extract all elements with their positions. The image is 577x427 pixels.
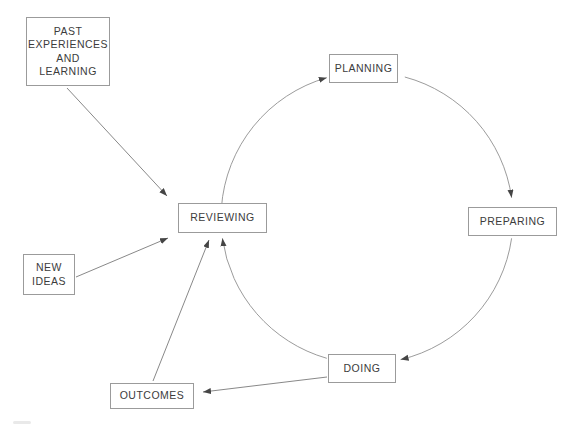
node-outcomes: OUTCOMES xyxy=(110,383,194,409)
node-doing: DOING xyxy=(328,354,396,383)
cycle-arc-preparing-to-doing xyxy=(401,238,512,359)
node-reviewing: REVIEWING xyxy=(178,203,267,233)
cycle-arc-reviewing-to-planning xyxy=(221,78,326,208)
node-past-experiences-and-learning: PAST EXPERIENCES AND LEARNING xyxy=(26,17,110,86)
cycle-arc-planning-to-preparing xyxy=(405,77,512,198)
arrow-outcomes-to-reviewing xyxy=(153,240,209,381)
node-past-experiences-label: PAST EXPERIENCES AND LEARNING xyxy=(28,25,108,79)
arrow-doing-to-outcomes xyxy=(203,377,327,392)
cycle-diagram: PAST EXPERIENCES AND LEARNING PLANNING P… xyxy=(0,0,577,427)
node-doing-label: DOING xyxy=(344,362,381,376)
node-reviewing-label: REVIEWING xyxy=(190,211,255,225)
arrow-past-experiences-to-reviewing xyxy=(67,88,167,196)
node-planning-label: PLANNING xyxy=(335,62,393,76)
cycle-arc-doing-to-reviewing xyxy=(222,238,326,358)
scan-artifact xyxy=(13,421,31,424)
node-planning: PLANNING xyxy=(329,54,398,83)
node-outcomes-label: OUTCOMES xyxy=(120,389,185,403)
node-preparing-label: PREPARING xyxy=(480,215,546,229)
node-new-ideas-label: NEW IDEAS xyxy=(32,261,66,288)
arrow-new-ideas-to-reviewing xyxy=(76,238,168,277)
node-preparing: PREPARING xyxy=(468,207,557,236)
node-new-ideas: NEW IDEAS xyxy=(23,254,75,295)
